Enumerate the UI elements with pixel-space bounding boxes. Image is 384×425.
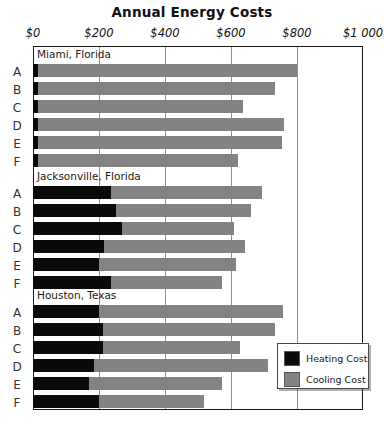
y-tick-label-1-F: F	[4, 277, 30, 291]
bar-row	[0, 186, 384, 199]
bar-row	[0, 276, 384, 289]
legend-item-0: Heating Cost	[284, 351, 367, 365]
y-tick-label-0-A: A	[4, 65, 30, 79]
group-title-0: Miami, Florida	[37, 48, 111, 60]
bar-segment-cooling	[103, 341, 240, 354]
bar-segment-cooling	[89, 377, 222, 390]
bar-row	[0, 82, 384, 95]
bar-segment-heating	[33, 258, 99, 271]
bar-segment-cooling	[38, 136, 282, 149]
bar-segment-heating	[33, 100, 38, 113]
bar-segment-heating	[33, 341, 103, 354]
y-tick-label-1-C: C	[4, 223, 30, 237]
chart-container: Annual Energy Costs $0$200$400$600$800$1…	[0, 0, 384, 425]
bar-segment-cooling	[104, 240, 245, 253]
bar-segment-cooling	[99, 395, 204, 408]
bar-segment-cooling	[103, 323, 275, 336]
bar-segment-heating	[33, 395, 99, 408]
bar-segment-heating	[33, 323, 103, 336]
bar-row	[0, 154, 384, 167]
bar-row	[0, 323, 384, 336]
bar-row	[0, 204, 384, 217]
x-tick-label-1000: $1 000	[343, 26, 383, 40]
y-tick-label-1-D: D	[4, 241, 30, 255]
x-tick-label-400: $400	[150, 26, 179, 40]
y-tick-label-2-F: F	[4, 396, 30, 410]
group-title-1: Jacksonville, Florida	[37, 170, 141, 182]
legend-label: Cooling Cost	[306, 374, 366, 385]
bar-segment-cooling	[94, 359, 268, 372]
bar-segment-heating	[33, 240, 104, 253]
chart-legend: Heating CostCooling Cost	[277, 343, 369, 389]
x-tick-label-0: $0	[26, 26, 41, 40]
bar-segment-cooling	[111, 186, 262, 199]
bar-segment-cooling	[116, 204, 251, 217]
bar-row	[0, 240, 384, 253]
bar-segment-cooling	[38, 64, 297, 77]
x-tick-label-200: $200	[84, 26, 113, 40]
bar-segment-cooling	[38, 82, 275, 95]
bar-row	[0, 222, 384, 235]
group-title-2: Houston, Texas	[37, 289, 116, 301]
bar-row	[0, 100, 384, 113]
legend-swatch-icon	[284, 351, 300, 366]
chart-title: Annual Energy Costs	[0, 4, 384, 20]
bar-segment-heating	[33, 359, 94, 372]
bar-segment-heating	[33, 204, 116, 217]
bar-row	[0, 395, 384, 408]
bar-row	[0, 136, 384, 149]
bar-segment-cooling	[111, 276, 222, 289]
y-tick-label-0-C: C	[4, 101, 30, 115]
bar-row	[0, 305, 384, 318]
bar-segment-cooling	[38, 118, 284, 131]
y-tick-label-2-E: E	[4, 378, 30, 392]
y-tick-label-0-D: D	[4, 119, 30, 133]
bar-segment-cooling	[38, 100, 243, 113]
bar-segment-heating	[33, 276, 111, 289]
bar-segment-heating	[33, 222, 122, 235]
bar-segment-heating	[33, 377, 89, 390]
y-tick-label-2-B: B	[4, 324, 30, 338]
y-tick-label-2-A: A	[4, 306, 30, 320]
legend-label: Heating Cost	[306, 353, 367, 364]
bar-segment-cooling	[99, 258, 236, 271]
bar-segment-heating	[33, 82, 38, 95]
bar-segment-heating	[33, 136, 38, 149]
bar-row	[0, 258, 384, 271]
bar-segment-cooling	[122, 222, 234, 235]
bar-segment-cooling	[99, 305, 283, 318]
bar-segment-heating	[33, 118, 38, 131]
y-tick-label-2-C: C	[4, 342, 30, 356]
x-tick-label-800: $800	[282, 26, 311, 40]
bar-segment-heating	[33, 186, 111, 199]
y-tick-label-2-D: D	[4, 360, 30, 374]
x-axis-tick-labels: $0$200$400$600$800$1 000	[0, 26, 384, 44]
bar-segment-cooling	[38, 154, 238, 167]
y-tick-label-0-E: E	[4, 137, 30, 151]
bar-segment-heating	[33, 305, 99, 318]
y-tick-label-0-F: F	[4, 155, 30, 169]
bar-segment-heating	[33, 154, 38, 167]
bar-row	[0, 64, 384, 77]
legend-swatch-icon	[284, 372, 300, 387]
x-tick-label-600: $600	[216, 26, 245, 40]
bar-row	[0, 118, 384, 131]
y-tick-label-1-A: A	[4, 187, 30, 201]
bar-segment-heating	[33, 64, 38, 77]
y-tick-label-1-B: B	[4, 205, 30, 219]
y-tick-label-0-B: B	[4, 83, 30, 97]
y-tick-label-1-E: E	[4, 259, 30, 273]
legend-item-1: Cooling Cost	[284, 372, 366, 386]
